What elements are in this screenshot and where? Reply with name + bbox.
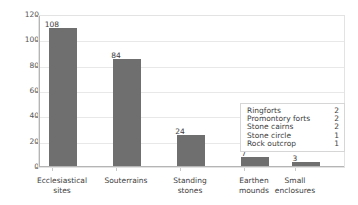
legend-count: 1 — [326, 140, 339, 148]
bar-souterrains — [113, 59, 141, 166]
gridline-100 — [39, 41, 344, 42]
x-axis-label-standing-stones: Standing stones — [154, 176, 226, 195]
x-axis-label-souterrains: Souterrains — [90, 176, 162, 186]
x-axis-label-ecclesiastical-sites: Ecclesiastical sites — [26, 176, 98, 195]
y-axis-line — [39, 16, 40, 167]
x-axis-label-small-enclosures: Small enclosures — [259, 176, 331, 195]
x-axis-tickmark-3 — [244, 168, 245, 171]
bar-chart: 120 100 80 60 40 20 0 108 84 24 7 3 Eccl… — [0, 0, 358, 205]
x-axis-label-line2: stones — [154, 186, 226, 196]
x-axis-label-line1: Small — [259, 176, 331, 186]
x-axis-tickmark-2 — [180, 168, 181, 171]
x-axis-tickmark-4 — [295, 168, 296, 171]
legend-label: Rock outcrop — [247, 140, 326, 148]
bar-value-ecclesiastical-sites: 108 — [24, 21, 80, 29]
x-axis-label-line2: sites — [26, 186, 98, 196]
x-axis-label-line1: Souterrains — [90, 176, 162, 186]
legend-table: Ringforts 2 Promontory forts 2 Stone cai… — [247, 107, 339, 148]
x-axis-label-line1: Standing — [154, 176, 226, 186]
x-axis-label-line2: enclosures — [259, 186, 331, 196]
bar-value-small-enclosures: 3 — [267, 155, 323, 163]
x-axis-tickmark-1 — [116, 168, 117, 171]
gridline-80 — [39, 67, 344, 68]
bar-value-standing-stones: 24 — [152, 128, 208, 136]
gridline-60 — [39, 92, 344, 93]
inset-legend-table: Ringforts 2 Promontory forts 2 Stone cai… — [240, 103, 345, 152]
bar-earthen-mounds — [241, 157, 269, 166]
x-axis-label-line1: Ecclesiastical — [26, 176, 98, 186]
x-axis-tickmark-0 — [52, 168, 53, 171]
legend-row: Rock outcrop 1 — [247, 140, 339, 148]
bar-ecclesiastical-sites — [49, 28, 77, 166]
bar-standing-stones — [177, 135, 205, 166]
bar-value-souterrains: 84 — [88, 52, 144, 60]
x-axis-line — [39, 166, 344, 167]
